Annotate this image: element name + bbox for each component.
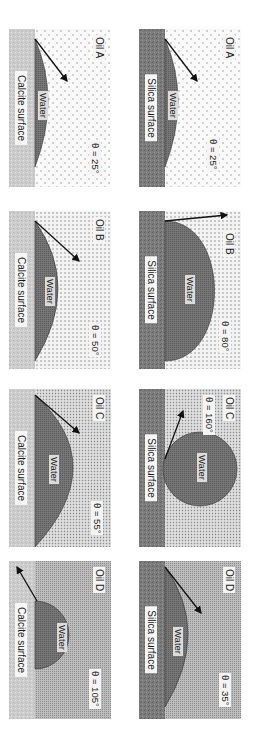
surface-label: Silica surface	[145, 606, 157, 673]
panel-calcite-oil-c: Oil C θ = 55° Water Calcite surface	[9, 389, 111, 547]
panel-calcite-oil-d: Oil D θ = 105° Water Calcite surface	[9, 561, 111, 719]
water-label: Water	[50, 455, 60, 484]
contact-angle-label: θ = 25°	[208, 137, 220, 171]
oil-label: Oil C	[223, 395, 235, 421]
oil-label: Oil C	[93, 395, 105, 421]
oil-label: Oil A	[93, 35, 105, 60]
oil-label: Oil B	[223, 231, 235, 257]
panel-calcite-oil-a: Oil A θ = 25° Water Calcite surface	[9, 29, 111, 187]
oil-label: Oil A	[223, 35, 235, 60]
contact-angle-label: θ = 25°	[90, 141, 102, 175]
panel-silica-oil-a: Oil A θ = 25° Water Silica surface	[139, 29, 241, 187]
contact-angle-label: θ = 50°	[90, 323, 102, 357]
oil-label: Oil D	[223, 567, 235, 593]
water-label: Water	[39, 91, 49, 120]
surface-label: Silica surface	[145, 74, 157, 141]
panel-calcite-oil-b: Oil B θ = 50° Water Calcite surface	[9, 211, 111, 369]
water-label: Water	[58, 623, 68, 652]
surface-label: Calcite surface	[15, 603, 27, 677]
contact-angle-label: θ = 105°	[90, 669, 102, 709]
contact-angle-label: θ = 80°	[220, 319, 232, 353]
contact-angle-label: θ = 35°	[220, 673, 232, 707]
surface-label: Silica surface	[145, 256, 157, 323]
water-label: Water	[46, 277, 56, 306]
panel-silica-oil-b: Oil B θ = 80° Water Silica surface	[139, 211, 241, 369]
surface-label: Calcite surface	[15, 431, 27, 505]
surface-label: Calcite surface	[15, 253, 27, 327]
surface-label: Calcite surface	[15, 71, 27, 145]
surface-label: Silica surface	[145, 434, 157, 501]
oil-label: Oil B	[93, 217, 105, 243]
contact-angle-label: θ = 160°	[204, 395, 216, 435]
water-label: Water	[169, 91, 179, 120]
contact-angle-label: θ = 55°	[92, 501, 104, 535]
panel-silica-oil-c: Oil C θ = 160° Water Silica surface	[139, 389, 241, 547]
water-label: Water	[174, 627, 184, 656]
oil-label: Oil D	[93, 567, 105, 593]
panel-silica-oil-d: Oil D θ = 35° Water Silica surface	[139, 561, 241, 719]
water-label: Water	[198, 453, 208, 482]
water-label: Water	[186, 275, 196, 304]
contact-angle-figure: Oil A θ = 25° Water Silica surface Oil B…	[0, 0, 256, 736]
